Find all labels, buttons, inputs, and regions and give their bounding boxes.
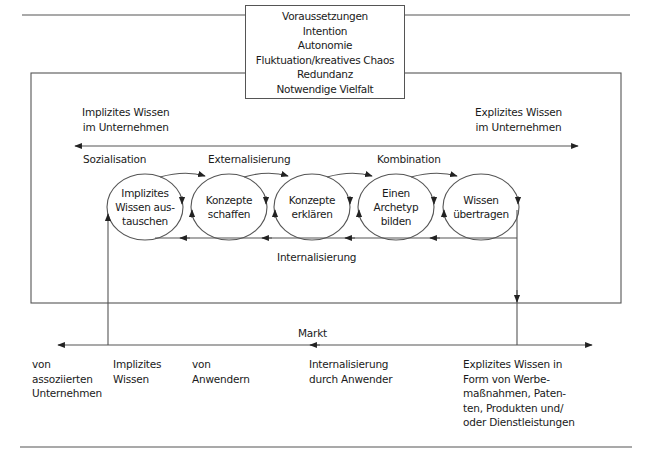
label-line: im Unternehmen	[475, 120, 562, 135]
label-line: durch Anwender	[309, 372, 392, 387]
label-line: Explizites Wissen	[475, 105, 562, 120]
label-line: Einen	[358, 186, 434, 200]
label-line: Wissen	[113, 372, 161, 387]
market-label: Markt	[298, 326, 327, 341]
prerequisites-box: Voraussetzungen Intention Autonomie Fluk…	[245, 5, 405, 99]
label-line: Implizites	[107, 186, 183, 200]
implicit-knowledge-company-label: Implizites Wissen im Unternehmen	[82, 105, 169, 134]
label-line: Konzepte	[274, 193, 350, 207]
label-line: ten, Produkten und/	[463, 401, 575, 416]
label-line: übertragen	[443, 207, 519, 221]
implicit-knowledge-label: Implizites Wissen	[113, 357, 161, 386]
label-line: oder Dienstleistungen	[463, 415, 575, 430]
label-line: Explizites Wissen in	[463, 357, 575, 372]
explicit-knowledge-output: Explizites Wissen in Form von Werbe- maß…	[463, 357, 575, 430]
label-line: Form von Werbe-	[463, 372, 575, 387]
label-line: von	[192, 357, 250, 372]
label-line: im Unternehmen	[82, 120, 169, 135]
phase-combination: Kombination	[377, 152, 441, 167]
label-line: assoziierten	[32, 372, 102, 387]
prerequisites-title: Voraussetzungen	[246, 9, 404, 24]
label-line: Implizites	[113, 357, 161, 372]
label-line: erklären	[274, 207, 350, 221]
label-line: Unternehmen	[32, 386, 102, 401]
step-3-label: Konzepte erklären	[274, 193, 350, 221]
phase-socialization: Sozialisation	[83, 152, 146, 167]
label-line: Wissen	[443, 193, 519, 207]
step-5-label: Wissen übertragen	[443, 193, 519, 221]
label-line: Anwendern	[192, 372, 250, 387]
source-associated-companies: von assoziierten Unternehmen	[32, 357, 102, 401]
prerequisite-item: Autonomie	[246, 38, 404, 53]
label-line: tauschen	[107, 214, 183, 228]
internalization-by-users: Internalisierung durch Anwender	[309, 357, 392, 386]
step-2-label: Konzepte schaffen	[191, 193, 267, 221]
phase-internalization: Internalisierung	[277, 250, 356, 265]
prerequisite-item: Fluktuation/kreatives Chaos	[246, 53, 404, 68]
label-line: Archetyp	[358, 200, 434, 214]
label-line: von	[32, 357, 102, 372]
label-line: bilden	[358, 214, 434, 228]
label-line: Konzepte	[191, 193, 267, 207]
source-users: von Anwendern	[192, 357, 250, 386]
label-line: Wissen aus-	[107, 200, 183, 214]
label-line: maßnahmen, Paten-	[463, 386, 575, 401]
label-line: Internalisierung	[309, 357, 392, 372]
phase-externalization: Externalisierung	[208, 152, 290, 167]
step-1-label: Implizites Wissen aus- tauschen	[107, 186, 183, 228]
step-4-label: Einen Archetyp bilden	[358, 186, 434, 228]
prerequisite-item: Intention	[246, 24, 404, 39]
explicit-knowledge-company-label: Explizites Wissen im Unternehmen	[475, 105, 562, 134]
label-line: schaffen	[191, 207, 267, 221]
prerequisite-item: Notwendige Vielfalt	[246, 82, 404, 97]
prerequisite-item: Redundanz	[246, 67, 404, 82]
label-line: Implizites Wissen	[82, 105, 169, 120]
